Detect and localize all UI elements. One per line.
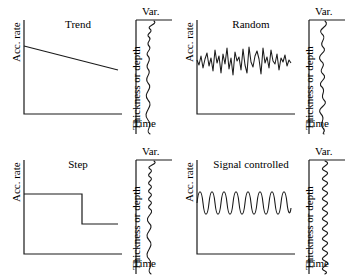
panel-random: Random Acc. rate Time Var. Thickness or …: [173, 0, 345, 139]
axis-label-thickness-random: Thickness or depth: [303, 46, 315, 130]
var-plot-random: Var. Thickness or depth: [301, 8, 345, 136]
rate-plot-signal-controlled: Acc. rate: [191, 158, 295, 268]
rate-chart-step: [18, 158, 122, 268]
axis-label-thickness-step: Thickness or depth: [130, 186, 142, 270]
var-series-random: [319, 21, 326, 134]
series-trend: [24, 46, 118, 70]
axis-label-acc-rate-random: Acc. rate: [183, 22, 195, 62]
figure-accumulation-rate-scenarios: Trend Acc. rate Time Var. Thickness or d…: [0, 0, 345, 279]
var-plot-trend: Var. Thickness or depth: [128, 8, 172, 136]
series-random: [197, 47, 291, 75]
var-series-trend: [146, 21, 155, 134]
axis-label-thickness-trend: Thickness or depth: [130, 46, 142, 130]
axis-label-acc-rate-trend: Acc. rate: [10, 22, 22, 62]
rate-chart-trend: [18, 18, 122, 128]
panel-trend: Trend Acc. rate Time Var. Thickness or d…: [0, 0, 172, 139]
var-plot-signal-controlled: Var. Thickness or depth: [301, 148, 345, 276]
var-plot-step: Var. Thickness or depth: [128, 148, 172, 276]
axis-label-acc-rate-step: Acc. rate: [10, 162, 22, 202]
rate-plot-step: Acc. rate: [18, 158, 122, 268]
series-step: [24, 194, 118, 224]
axis-label-acc-rate-signal-controlled: Acc. rate: [183, 162, 195, 202]
rate-chart-random: [191, 18, 295, 128]
panel-step: Step Acc. rate Time Var. Thickness or de…: [0, 140, 172, 279]
series-signal-controlled: [197, 192, 291, 215]
rate-chart-signal-controlled: [191, 158, 295, 268]
rate-plot-random: Acc. rate: [191, 18, 295, 128]
axes-step: [24, 160, 122, 254]
var-series-step: [147, 161, 155, 274]
axis-label-thickness-signal-controlled: Thickness or depth: [303, 186, 315, 270]
var-series-signal-controlled: [322, 161, 327, 274]
rate-plot-trend: Acc. rate: [18, 18, 122, 128]
panel-signal-controlled: Signal controlled Acc. rate Time Var. Th…: [173, 140, 345, 279]
